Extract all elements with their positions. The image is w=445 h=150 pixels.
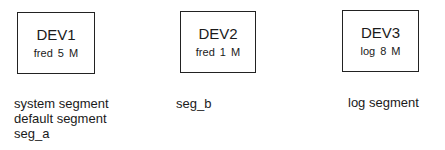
device-name: DEV1	[36, 26, 75, 43]
segment-label: system segment	[14, 96, 109, 111]
device-name: DEV3	[361, 24, 400, 41]
device-info: fred 5 M	[34, 46, 78, 60]
segment-list-dev3: log segment	[348, 95, 419, 110]
segment-list-dev1: system segment default segment seg_a	[14, 96, 109, 141]
device-info: fred 1 M	[196, 45, 240, 59]
segment-list-dev2: seg_b	[176, 96, 211, 111]
segment-label: seg_a	[14, 126, 109, 141]
device-info: log 8 M	[360, 44, 400, 58]
device-dev1: DEV1 fred 5 M	[17, 12, 95, 74]
device-dev3: DEV3 log 8 M	[342, 10, 419, 72]
device-name: DEV2	[198, 25, 237, 42]
segment-label: log segment	[348, 95, 419, 110]
segment-label: default segment	[14, 111, 109, 126]
device-dev2: DEV2 fred 1 M	[180, 11, 256, 73]
segment-label: seg_b	[176, 96, 211, 111]
